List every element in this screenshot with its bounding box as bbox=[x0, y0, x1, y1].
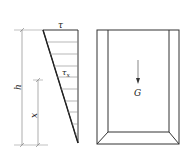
tau-x-label: τx bbox=[62, 68, 70, 78]
stress-distribution-figure: τ τx h x bbox=[13, 20, 78, 147]
height-label: h bbox=[13, 84, 23, 90]
tau-label: τ bbox=[58, 20, 64, 30]
container-corner-left bbox=[97, 132, 108, 144]
container-figure: G bbox=[97, 30, 179, 144]
position-label: x bbox=[29, 113, 39, 118]
diagram-canvas: τ τx h x G bbox=[0, 0, 192, 158]
container-corner-right bbox=[169, 132, 179, 144]
stress-hypotenuse bbox=[43, 30, 78, 143]
weight-label: G bbox=[134, 88, 141, 98]
weight-arrow-icon bbox=[136, 78, 140, 84]
container-outer bbox=[97, 30, 179, 144]
